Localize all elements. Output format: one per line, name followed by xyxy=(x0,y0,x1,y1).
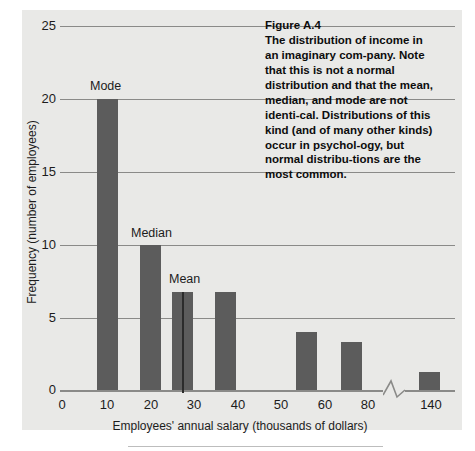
annotation-mode: Mode xyxy=(90,79,121,93)
x-tick-40: 40 xyxy=(218,397,258,412)
x-axis-title: Employees' annual salary (thousands of d… xyxy=(60,419,420,433)
y-tick-0: 0 xyxy=(22,382,56,397)
y-tick-25: 25 xyxy=(22,18,56,33)
x-tick-140: 140 xyxy=(411,397,451,412)
bar-40 xyxy=(215,292,236,390)
y-axis-title: Frequency (number of employees) xyxy=(25,92,39,332)
x-axis-baseline-right xyxy=(405,390,455,392)
annotation-median: Median xyxy=(131,226,172,240)
bar-20 xyxy=(140,245,161,390)
x-tick-10: 10 xyxy=(87,397,127,412)
gridline-10 xyxy=(60,245,455,246)
gridline-5 xyxy=(60,318,455,319)
x-tick-60: 60 xyxy=(305,397,345,412)
x-axis-baseline-left xyxy=(60,390,383,392)
x-tick-30: 30 xyxy=(174,397,214,412)
x-tick-80: 80 xyxy=(348,397,388,412)
x-tick-50: 50 xyxy=(261,397,301,412)
figure-container: 25 20 15 10 5 0 Mode Median Mean 0 10 20… xyxy=(0,0,475,451)
figure-number: Figure A.4 xyxy=(265,18,435,33)
bar-60 xyxy=(296,332,317,390)
footer-rule xyxy=(128,446,383,447)
x-tick-20: 20 xyxy=(131,397,171,412)
bar-80 xyxy=(341,342,362,390)
figure-caption: Figure A.4 The distribution of income in… xyxy=(265,18,435,182)
figure-caption-text: The distribution of income in an imagina… xyxy=(265,33,435,182)
bar-10 xyxy=(97,99,118,390)
bar-140 xyxy=(419,372,440,390)
x-tick-0: 0 xyxy=(42,397,82,412)
annotation-mean: Mean xyxy=(169,272,200,286)
mean-marker-line xyxy=(182,292,184,393)
